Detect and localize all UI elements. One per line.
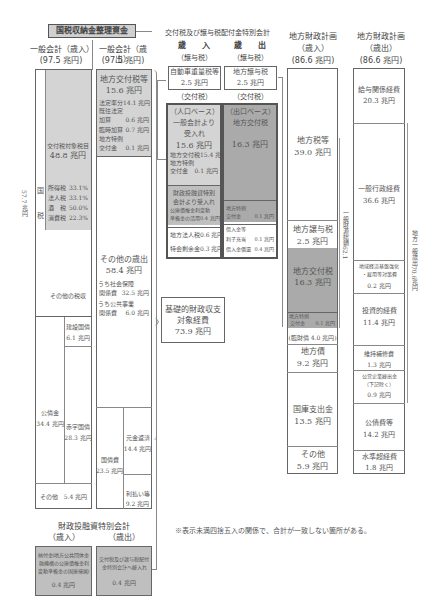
local-tokurei-block: 地方特例 交付金0.1 兆円 <box>288 312 337 328</box>
local-bonds-label: 地方債 <box>287 346 338 357</box>
local-tax-label: 地方税等 <box>287 135 338 146</box>
social-security-row: 関係費32.5 兆円 <box>97 289 151 297</box>
special-exp-tokurei-block: 地方特例 交付金0.1 兆円 <box>224 200 276 222</box>
local-expenditure-header: 地方財政計画 <box>353 32 409 42</box>
regional-value: 0.2 兆円 <box>353 280 405 291</box>
other-revenue-label: その他 5.4 兆円 <box>35 491 92 502</box>
title-connector <box>136 31 152 32</box>
general-expenditure-total: (97.5 兆円) <box>94 56 152 66</box>
local-other-value: 5.9 兆円 <box>287 461 338 472</box>
special-rev-others: 地方法人税0.6 兆円 特会剰余金0.3 兆円 <box>168 227 220 256</box>
special-exp-jouyo-tag: （譲与税） <box>224 53 276 63</box>
kofu-item-row: 加算0.6 兆円 <box>97 115 151 124</box>
regional-divider <box>353 260 405 261</box>
kofu-item-row: 既往法定 <box>97 107 151 115</box>
regional-line1: 地域経済基盤強化 <box>353 262 405 270</box>
kokuzei-char-2: 税 <box>37 212 44 220</box>
deficit-bonds-block <box>64 347 92 483</box>
fiscal-investment-rev-box: 納付金(地方公共団体金 融機構の公庫債権金利 変動準備金の国庫帰属) 0.4 兆… <box>35 546 92 596</box>
tax-rate-row: 消費税22.3% <box>46 213 90 223</box>
bond-cost-value: 14.2 兆円 <box>353 430 405 441</box>
enterprise-divider <box>353 370 405 371</box>
local-kofu-block: 地方交付税 16.3 兆円 <box>288 248 337 312</box>
special-rev-jouyo-box: 自動車重量税等 2.5 兆円 <box>168 66 221 90</box>
tax-rate-row: 法人税33.1% <box>46 193 90 203</box>
public-works-label: うち公共事業 <box>98 300 134 308</box>
local-revenue-sub: （歳入） <box>285 44 341 54</box>
bonds-label: 公債金 <box>36 407 64 418</box>
special-rev-other-row: 地方法人税0.6 兆円 <box>168 228 220 242</box>
divider <box>92 40 93 70</box>
regional-line2: ・雇用等対策費 <box>353 270 405 278</box>
treasury-label: 国庫支出金 <box>287 404 338 415</box>
zaito-connector <box>152 200 157 570</box>
water-label: 水準超経費 <box>353 452 405 463</box>
local-tax-value: 39.0 兆円 <box>287 147 338 158</box>
investment-divider <box>353 293 405 294</box>
special-exp-other-row: 利子充当0.1 兆円 <box>224 234 276 244</box>
maintenance-divider <box>353 345 405 346</box>
construction-bonds-label: 建設国債 <box>64 321 92 332</box>
kofu-expenditure-value: 15.6 兆円 <box>96 85 152 96</box>
tax-rate-row: 酒 税50.0% <box>46 203 90 213</box>
bond-cost-divider <box>353 403 405 404</box>
special-exp-jouyo-box: 地方譲与税 2.5 兆円 <box>224 66 277 90</box>
special-rev-zaito-block: 財政投融資特別 会計より受入れ 公庫債権金利変動 準備金の活用0.4 兆円 <box>168 185 220 225</box>
deficit-bonds-label: 赤字国債 <box>64 421 92 432</box>
fiscal-investment-header: 財政投融資特別会計 <box>35 522 152 532</box>
kofu-items: 法定率分14.1 兆円 既往法定 加算0.6 兆円 臨時加算0.7 兆円 地方特… <box>97 98 151 152</box>
local-expenditure-sub: （歳出） <box>353 44 409 54</box>
construction-bonds-value: 6.1 兆円 <box>64 332 92 343</box>
special-rev-kofu-tag: （交付税） <box>168 92 220 102</box>
local-jouyo-value: 2.5 兆円 <box>287 236 338 247</box>
local-bonds-value: 9.2 兆円 <box>287 358 338 369</box>
interest-value: 9.2 兆円 <box>123 498 152 509</box>
rinzai-divider <box>287 344 338 345</box>
enterprise-value: 0.9 兆円 <box>353 389 405 400</box>
special-rev-other-row: 特会剰余金0.3 兆円 <box>168 242 220 256</box>
title-box: 国税収納金整理資金 <box>48 24 136 38</box>
jouyo-divider <box>287 220 338 221</box>
local-revenue-total: (86.6 兆円) <box>285 56 341 66</box>
general-revenue-header: 一般会計（歳入） <box>30 45 92 55</box>
special-account-header: 交付税及び譲与税配付金特別会計 <box>155 28 280 38</box>
connector-special-to-local <box>278 77 283 327</box>
other-expenditure-value: 58.4 兆円 <box>96 265 152 276</box>
local-jouyo-label: 地方譲与税 <box>287 224 338 235</box>
special-exp-other-row: 借入金償還0.4 兆円 <box>224 244 276 255</box>
page-title: 国税収納金整理資金 <box>49 25 135 37</box>
principal-value: 14.4 兆円 <box>123 443 152 454</box>
other-tax-label: その他の税収 <box>45 290 91 301</box>
kofu-item-row: 法定率分14.1 兆円 <box>97 98 151 107</box>
general-fund-bracket <box>339 138 340 328</box>
footnote: ※表示未満四捨五入の関係で、合計が一致しない箇所がある。 <box>175 527 371 535</box>
basic-balance-box: 基礎的財政収支 対象経費 73.9 兆円 <box>161 297 225 343</box>
investment-value: 11.4 兆円 <box>353 318 405 329</box>
deficit-bonds-value: 28.3 兆円 <box>64 432 92 443</box>
local-expenditure-total: (86.6 兆円) <box>353 56 409 66</box>
bonds-value: 34.4 兆円 <box>36 418 64 429</box>
tax-rate-list: 所得税33.1% 法人税33.1% 酒 税50.0% 消費税22.3% <box>46 183 90 223</box>
salary-label: 給与関係経費 <box>353 85 405 96</box>
salary-value: 20.3 兆円 <box>353 96 405 107</box>
debt-label: 国債費 <box>96 454 123 465</box>
enterprise-line1: 公営企業繰出金 <box>353 372 405 380</box>
rinzai-label: (臨財債 4.0 兆円) <box>287 332 338 343</box>
special-rev-title: 歳 入 <box>168 41 220 51</box>
general-fund-side: 一般財源総額62.1 <box>341 210 349 325</box>
public-works-row: 関係費6.0 兆円 <box>97 309 151 317</box>
maintenance-label: 維持補修費 <box>353 348 405 359</box>
other-expenditure-label: その他の歳出 <box>96 254 152 265</box>
general-revenue-total: (97.5 兆円) <box>30 56 92 66</box>
kofu-item-row: 地方特例 <box>97 135 151 143</box>
special-exp-kofu-block: （出口ベース） 地方交付税 16.3 兆円 <box>224 105 276 200</box>
general-exp-side: 地方一般歳出70.6兆円 <box>410 230 418 330</box>
maintenance-value: 1.3 兆円 <box>353 359 405 370</box>
special-exp-title: 歳 出 <box>224 41 276 51</box>
investment-label: 投資的経費 <box>353 306 405 317</box>
social-security-label: うち社会保障 <box>98 280 134 288</box>
treasury-divider <box>287 372 338 373</box>
bond-cost-label: 公債費等 <box>353 418 405 429</box>
local-revenue-header: 地方財政計画 <box>285 32 341 42</box>
special-exp-others: 借入金等 利子充当0.1 兆円 借入金償還0.4 兆円 <box>224 224 276 255</box>
